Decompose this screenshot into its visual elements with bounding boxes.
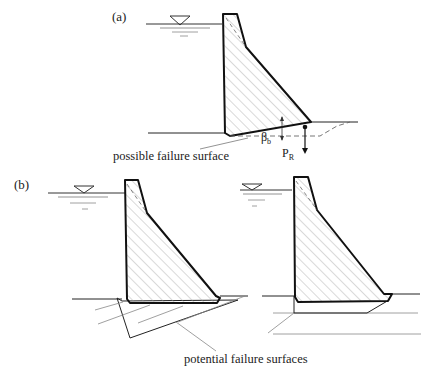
panel-a: (a) βb PR possible failure surface [112,9,358,163]
water-level-icon [146,16,222,36]
water-level-icon [240,184,292,206]
annotation-leader-b1 [176,322,216,351]
panel-b: (b) [14,177,421,366]
water-level-icon [48,186,126,209]
potential-failure-annotation: potential failure surfaces [184,352,308,366]
dam-failure-diagram: (a) βb PR possible failure surface [0,0,436,377]
annotation-leader-a [200,138,248,149]
failure-surface-annotation: possible failure surface [113,149,229,163]
dam-body-b1 [125,180,220,303]
annotation-leader-b2 [268,313,294,333]
panel-a-label: (a) [112,9,126,24]
dam-body-b2 [294,177,392,302]
panel-b-label: (b) [14,177,29,192]
force-symbol: PR [282,146,295,162]
beta-symbol: βb [261,130,271,146]
